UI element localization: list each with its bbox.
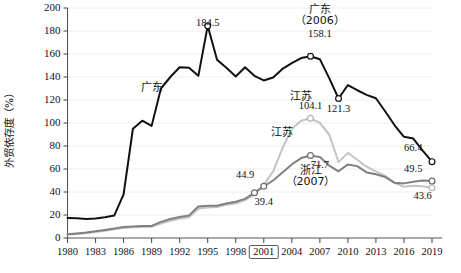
annotation-10: 43.6 — [413, 190, 431, 201]
annotation-12: （2007） — [286, 175, 336, 188]
data-marker-浙江-2006 — [308, 153, 314, 159]
data-marker-广东-2009 — [336, 96, 342, 102]
annotation-14: 44.9 — [236, 169, 254, 180]
y-tick-label-120: 120 — [44, 93, 61, 105]
annotation-16: 49.5 — [404, 163, 422, 174]
annotation-4: 158.1 — [308, 28, 332, 39]
x-tick-label-2010: 2010 — [337, 246, 358, 257]
data-marker-广东-2006 — [308, 53, 314, 59]
y-tick-label-0: 0 — [55, 231, 61, 243]
x-tick-label-1998: 1998 — [225, 246, 246, 257]
annotation-6: 66.4 — [404, 142, 423, 153]
annotation-8: 104.1 — [299, 100, 323, 111]
x-tick-label-1995: 1995 — [197, 246, 218, 257]
annotation-15: 39.4 — [255, 196, 274, 207]
x-tick-label-2007: 2007 — [309, 246, 330, 257]
x-tick-label-2016: 2016 — [393, 246, 414, 257]
y-tick-label-140: 140 — [44, 70, 61, 82]
x-tick-label-2013: 2013 — [365, 246, 386, 257]
x-tick-label-1989: 1989 — [141, 246, 162, 257]
series-line-浙江 — [68, 156, 433, 235]
chart-canvas: 020406080100120140160180200外贸依存度（%）19801… — [0, 0, 461, 273]
x-tick-label-1992: 1992 — [169, 246, 190, 257]
x-tick-label-2004: 2004 — [281, 246, 303, 257]
y-tick-label-160: 160 — [44, 47, 61, 59]
x-tick-label-1980: 1980 — [57, 246, 78, 257]
y-tick-label-180: 180 — [44, 24, 61, 36]
annotation-5: 121.3 — [327, 103, 351, 114]
annotation-1: 广东 — [141, 81, 163, 94]
x-tick-label-1986: 1986 — [113, 246, 134, 257]
annotation-9: 江苏 — [271, 126, 293, 139]
x-tick-label-1983: 1983 — [85, 246, 106, 257]
foreign-trade-dependence-chart: 020406080100120140160180200外贸依存度（%）19801… — [0, 0, 461, 273]
y-tick-label-200: 200 — [44, 1, 61, 13]
y-tick-label-80: 80 — [50, 139, 62, 151]
data-marker-广东-2019 — [429, 159, 435, 165]
x-tick-label-2001: 2001 — [253, 246, 274, 257]
data-marker-浙江-2019 — [429, 178, 435, 184]
series-line-广东 — [68, 26, 433, 219]
svg-text:外贸依存度（%）: 外贸依存度（%） — [3, 88, 15, 168]
annotation-0: 184.5 — [196, 17, 220, 28]
y-tick-label-60: 60 — [50, 162, 62, 174]
y-tick-label-100: 100 — [44, 116, 61, 128]
x-tick-label-2019: 2019 — [422, 246, 443, 257]
data-marker-江苏-2006 — [308, 115, 314, 121]
y-tick-label-20: 20 — [50, 208, 62, 220]
y-axis-title: 外贸依存度（%） — [3, 88, 15, 168]
data-marker-浙江-2001 — [261, 183, 267, 189]
y-tick-label-40: 40 — [50, 185, 62, 197]
annotation-13: 71.7 — [311, 159, 329, 170]
annotation-3: （2006） — [295, 14, 345, 27]
